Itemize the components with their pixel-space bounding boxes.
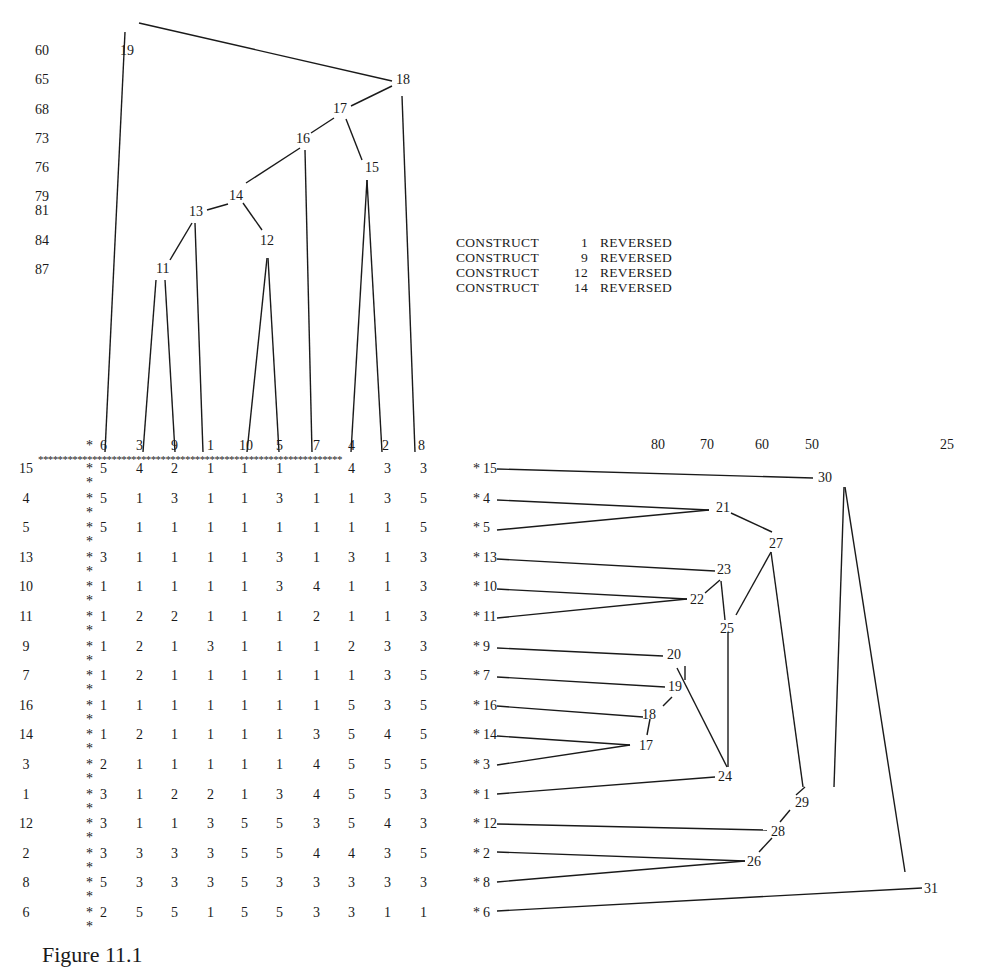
row-label: 16 bbox=[0, 699, 52, 713]
scale-label: 84 bbox=[35, 234, 49, 248]
grid-cell: 5 bbox=[348, 817, 355, 831]
grid-cell: 1 bbox=[313, 669, 320, 683]
grid-cell: 1 bbox=[241, 788, 248, 802]
grid-cell: 3 bbox=[420, 788, 427, 802]
tree-node: 16 bbox=[296, 132, 310, 146]
grid-cell: 1 bbox=[276, 699, 283, 713]
grid-cell: 5 bbox=[420, 728, 427, 742]
row-star: * bbox=[473, 699, 480, 713]
grid-cell: 1 bbox=[241, 580, 248, 594]
grid-cell: 1 bbox=[420, 906, 427, 920]
grid-cell: 5 bbox=[348, 699, 355, 713]
row-star: * bbox=[86, 669, 93, 683]
grid-cell: 2 bbox=[100, 758, 107, 772]
column-header: 10 bbox=[239, 439, 253, 453]
figure-caption: Figure 11.1 bbox=[42, 944, 143, 966]
row-star: * bbox=[86, 890, 93, 904]
grid-cell: 2 bbox=[136, 728, 143, 742]
row-label: 10 bbox=[0, 580, 52, 594]
column-header: 5 bbox=[276, 439, 283, 453]
row-star: * bbox=[86, 906, 93, 920]
grid-cell: 5 bbox=[420, 758, 427, 772]
row-label: 1 bbox=[0, 788, 52, 802]
grid-cell: 5 bbox=[420, 492, 427, 506]
column-header: 1 bbox=[207, 439, 214, 453]
tree-node: 26 bbox=[747, 855, 761, 869]
row-star: * bbox=[86, 920, 93, 934]
tree-node: 13 bbox=[189, 205, 203, 219]
grid-cell: 1 bbox=[276, 610, 283, 624]
grid-cell: 4 bbox=[313, 847, 320, 861]
grid-cell: 5 bbox=[241, 906, 248, 920]
tree-node: 31 bbox=[924, 882, 938, 896]
grid-cell: 3 bbox=[420, 640, 427, 654]
grid-cell: 4 bbox=[136, 462, 143, 476]
scale-label: 60 bbox=[755, 438, 769, 452]
row-star: * bbox=[473, 788, 480, 802]
grid-cell: 5 bbox=[420, 699, 427, 713]
tree-node: 19 bbox=[668, 680, 682, 694]
grid-cell: 1 bbox=[313, 462, 320, 476]
grid-cell: 3 bbox=[384, 462, 391, 476]
grid-cell: 1 bbox=[241, 521, 248, 535]
grid-cell: 1 bbox=[100, 669, 107, 683]
grid-cell: 1 bbox=[348, 669, 355, 683]
grid-cell: 3 bbox=[384, 876, 391, 890]
grid-cell: 1 bbox=[207, 906, 214, 920]
tree-node: 19 bbox=[120, 44, 134, 58]
row-star: * bbox=[86, 594, 93, 608]
row-star: * bbox=[86, 728, 93, 742]
grid-cell: 3 bbox=[207, 817, 214, 831]
grid-cell: 3 bbox=[420, 551, 427, 565]
grid-cell: 1 bbox=[207, 758, 214, 772]
grid-cell: 1 bbox=[384, 906, 391, 920]
grid-cell: 3 bbox=[100, 788, 107, 802]
grid-cell: 1 bbox=[207, 580, 214, 594]
grid-cell: 1 bbox=[313, 640, 320, 654]
grid-cell: 2 bbox=[348, 640, 355, 654]
grid-cell: 3 bbox=[276, 492, 283, 506]
row-star: * bbox=[86, 580, 93, 594]
row-star: * bbox=[86, 758, 93, 772]
grid-cell: 1 bbox=[241, 610, 248, 624]
grid-cell: 1 bbox=[100, 610, 107, 624]
grid-cell: 2 bbox=[136, 610, 143, 624]
grid-cell: 1 bbox=[171, 728, 178, 742]
grid-cell: 3 bbox=[207, 847, 214, 861]
tree-leaf-label: 12 bbox=[483, 817, 497, 831]
grid-cell: 1 bbox=[207, 521, 214, 535]
grid-cell: 1 bbox=[241, 758, 248, 772]
tree-node: 17 bbox=[333, 102, 347, 116]
grid-cell: 4 bbox=[384, 817, 391, 831]
grid-cell: 5 bbox=[348, 758, 355, 772]
grid-cell: 5 bbox=[276, 847, 283, 861]
grid-cell: 5 bbox=[100, 492, 107, 506]
grid-cell: 1 bbox=[207, 610, 214, 624]
grid-cell: 5 bbox=[384, 758, 391, 772]
row-star: * bbox=[86, 772, 93, 786]
reversed-constructs-note: CONSTRUCT1REVERSED CONSTRUCT9REVERSED CO… bbox=[456, 235, 672, 295]
row-star: * bbox=[86, 492, 93, 506]
row-star: * bbox=[473, 521, 480, 535]
grid-cell: 3 bbox=[100, 817, 107, 831]
tree-leaf-label: 11 bbox=[483, 610, 496, 624]
grid-cell: 1 bbox=[241, 699, 248, 713]
grid-cell: 1 bbox=[276, 521, 283, 535]
row-star: * bbox=[86, 788, 93, 802]
grid-cell: 1 bbox=[207, 728, 214, 742]
grid-cell: 2 bbox=[136, 640, 143, 654]
column-header: 3 bbox=[136, 439, 143, 453]
tree-node: 18 bbox=[396, 73, 410, 87]
row-label: 12 bbox=[0, 817, 52, 831]
row-star: * bbox=[473, 876, 480, 890]
grid-cell: 1 bbox=[241, 728, 248, 742]
grid-cell: 5 bbox=[241, 847, 248, 861]
grid-cell: 2 bbox=[171, 788, 178, 802]
grid-cell: 1 bbox=[384, 521, 391, 535]
row-label: 3 bbox=[0, 758, 52, 772]
grid-cell: 1 bbox=[171, 521, 178, 535]
column-header: 8 bbox=[418, 439, 425, 453]
grid-cell: 1 bbox=[348, 580, 355, 594]
grid-cell: 3 bbox=[100, 551, 107, 565]
